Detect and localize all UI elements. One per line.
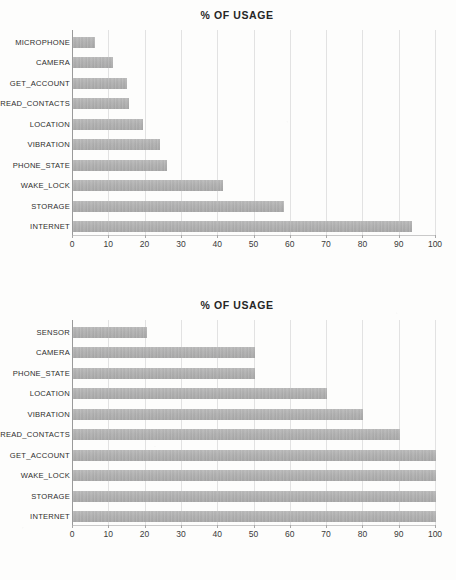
x-axis-tick-label: 70: [321, 239, 330, 249]
bar-row: GET_ACCOUNT: [0, 445, 456, 466]
bar: [73, 119, 143, 130]
bar: [73, 180, 223, 191]
bar-row: INTERNET: [0, 217, 456, 238]
category-label: PHONE_STATE: [13, 161, 70, 170]
category-label: PHONE_STATE: [13, 369, 70, 378]
bar: [73, 37, 95, 48]
x-axis-tick-label: 100: [428, 239, 442, 249]
x-axis-tick-label: 20: [140, 529, 149, 539]
bar: [73, 409, 363, 420]
bar: [73, 470, 436, 481]
category-label: STORAGE: [31, 202, 70, 211]
x-axis-tick-label: 90: [394, 239, 403, 249]
bar: [73, 57, 113, 68]
bar-row: VIBRATION: [0, 135, 456, 156]
category-label: SENSOR: [36, 328, 70, 337]
bar-row: READ_CONTACTS: [0, 94, 456, 115]
bar: [73, 368, 255, 379]
bar-row: WAKE_LOCK: [0, 466, 456, 487]
bar-row: CAMERA: [0, 343, 456, 364]
plot-area: 0102030405060708090100 MICROPHONECAMERAG…: [0, 30, 456, 262]
x-axis-tick-label: 40: [212, 239, 221, 249]
chart-title: % OF USAGE: [0, 0, 456, 21]
bar-row: LOCATION: [0, 384, 456, 405]
category-label: STORAGE: [31, 492, 70, 501]
bar: [73, 388, 327, 399]
bar-row: LOCATION: [0, 114, 456, 135]
category-label: VIBRATION: [27, 410, 70, 419]
category-label: MICROPHONE: [15, 38, 70, 47]
x-axis-tick-label: 10: [104, 239, 113, 249]
bar-row: CAMERA: [0, 53, 456, 74]
bar: [73, 450, 436, 461]
bar: [73, 98, 129, 109]
bar-row: GET_ACCOUNT: [0, 73, 456, 94]
category-label: LOCATION: [30, 389, 70, 398]
bar-row: PHONE_STATE: [0, 363, 456, 384]
bar-row: INTERNET: [0, 507, 456, 528]
bar-row: STORAGE: [0, 196, 456, 217]
category-label: INTERNET: [30, 512, 70, 521]
x-axis-tick-label: 10: [104, 529, 113, 539]
category-label: CAMERA: [36, 348, 70, 357]
category-label: GET_ACCOUNT: [10, 451, 70, 460]
bar-row: PHONE_STATE: [0, 155, 456, 176]
category-label: READ_CONTACTS: [0, 99, 70, 108]
category-label: GET_ACCOUNT: [10, 79, 70, 88]
bar-row: VIBRATION: [0, 404, 456, 425]
category-label: READ_CONTACTS: [0, 430, 70, 439]
bar: [73, 429, 400, 440]
bar-row: MICROPHONE: [0, 32, 456, 53]
x-axis-tick-label: 60: [285, 239, 294, 249]
x-axis-tick-label: 90: [394, 529, 403, 539]
bar-row: READ_CONTACTS: [0, 425, 456, 446]
x-axis-tick-label: 50: [249, 529, 258, 539]
x-axis-tick-label: 50: [249, 239, 258, 249]
bar-row: WAKE_LOCK: [0, 176, 456, 197]
bar: [73, 491, 436, 502]
category-label: WAKE_LOCK: [21, 181, 70, 190]
category-label: WAKE_LOCK: [21, 471, 70, 480]
bar: [73, 347, 255, 358]
x-axis-tick-label: 40: [212, 529, 221, 539]
usage-chart-bottom: % OF USAGE 0102030405060708090100 SENSOR…: [0, 290, 456, 580]
usage-chart-top: % OF USAGE 0102030405060708090100 MICROP…: [0, 0, 456, 290]
x-axis-tick-label: 70: [321, 529, 330, 539]
bar: [73, 78, 127, 89]
x-axis-tick-label: 30: [176, 529, 185, 539]
x-axis-tick-label: 60: [285, 529, 294, 539]
x-axis-tick-label: 100: [428, 529, 442, 539]
bar: [73, 327, 147, 338]
bar: [73, 160, 167, 171]
x-axis-tick-label: 0: [70, 239, 75, 249]
category-label: VIBRATION: [27, 140, 70, 149]
x-axis-tick-label: 80: [358, 239, 367, 249]
plot-area: 0102030405060708090100 SENSORCAMERAPHONE…: [0, 320, 456, 552]
bar: [73, 511, 436, 522]
bar: [73, 221, 412, 232]
bar: [73, 201, 284, 212]
chart-title: % OF USAGE: [0, 290, 456, 311]
x-axis-tick-label: 30: [176, 239, 185, 249]
bar-row: SENSOR: [0, 322, 456, 343]
chart-page: % OF USAGE 0102030405060708090100 MICROP…: [0, 0, 456, 580]
bar-row: STORAGE: [0, 486, 456, 507]
x-axis-tick-label: 80: [358, 529, 367, 539]
category-label: CAMERA: [36, 58, 70, 67]
bar: [73, 139, 160, 150]
category-label: INTERNET: [30, 222, 70, 231]
category-label: LOCATION: [30, 120, 70, 129]
x-axis-tick-label: 0: [70, 529, 75, 539]
x-axis-tick-label: 20: [140, 239, 149, 249]
